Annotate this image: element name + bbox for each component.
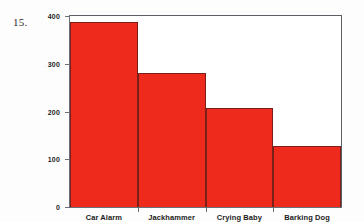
x-tick bbox=[273, 208, 274, 212]
bar-chart-figure: Frequency 0100200300400 Car AlarmJackham… bbox=[69, 15, 342, 208]
x-tick-label: Barking Dog bbox=[284, 213, 330, 222]
y-tick bbox=[65, 112, 69, 113]
bar-slot bbox=[273, 16, 341, 207]
bar-series bbox=[70, 16, 341, 207]
y-tick bbox=[65, 16, 69, 17]
y-tick bbox=[65, 64, 69, 65]
y-tick-label: 300 bbox=[48, 60, 60, 67]
problem-number: 15. bbox=[13, 16, 27, 28]
x-tick-label: Crying Baby bbox=[217, 213, 262, 222]
x-tick bbox=[206, 208, 207, 212]
x-tick-label: Jackhammer bbox=[148, 213, 195, 222]
bar-slot bbox=[206, 16, 274, 207]
y-tick bbox=[65, 207, 69, 208]
bar bbox=[138, 73, 206, 207]
y-tick bbox=[65, 159, 69, 160]
y-tick-label: 0 bbox=[56, 204, 60, 211]
bar bbox=[206, 108, 274, 207]
bar bbox=[273, 146, 341, 207]
chart-page: 15. Frequency 0100200300400 Car AlarmJac… bbox=[0, 0, 364, 222]
y-tick-label: 200 bbox=[48, 108, 60, 115]
x-tick-label: Car Alarm bbox=[86, 213, 122, 222]
bar-slot bbox=[70, 16, 138, 207]
bar bbox=[70, 22, 138, 207]
y-tick-label: 400 bbox=[48, 13, 60, 20]
x-tick bbox=[138, 208, 139, 212]
bar-slot bbox=[138, 16, 206, 207]
y-tick-label: 100 bbox=[48, 156, 60, 163]
